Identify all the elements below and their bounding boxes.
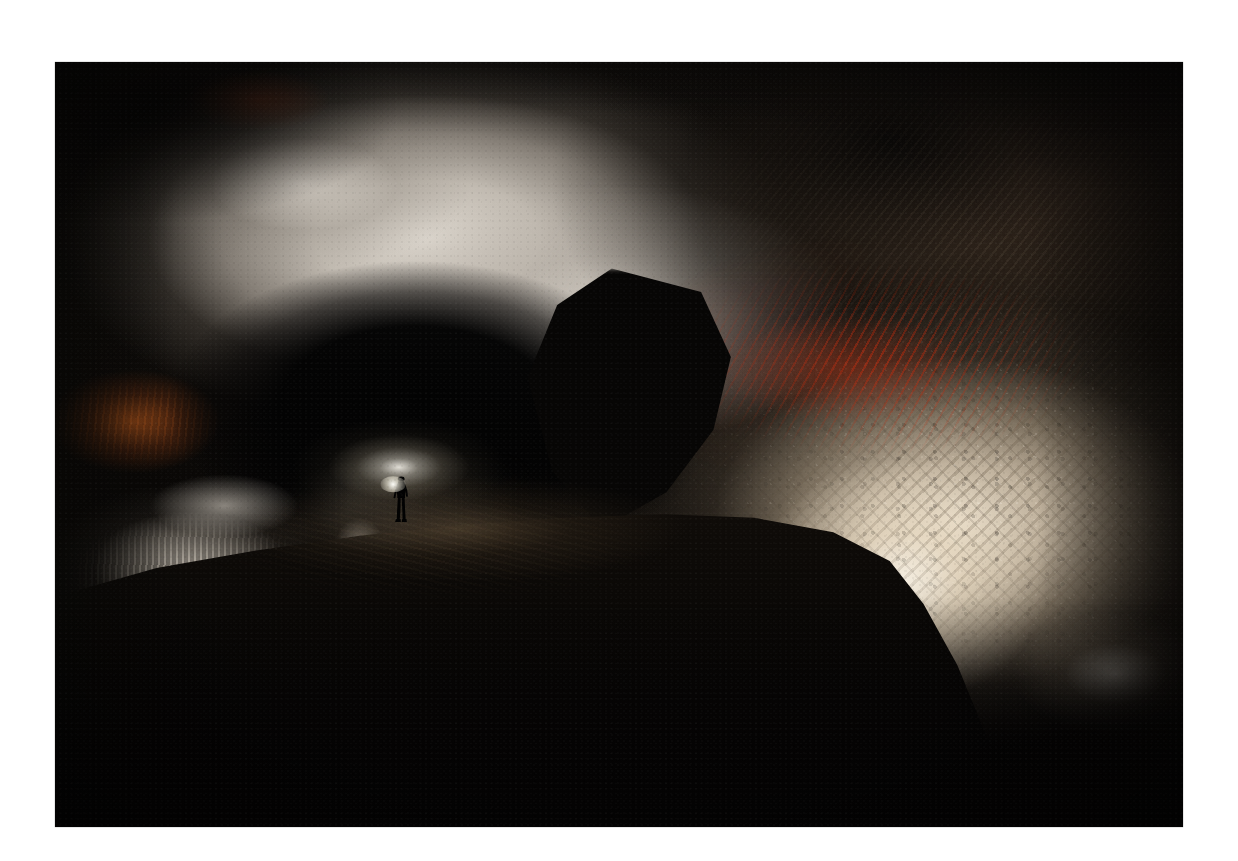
headlamp-core [381, 477, 406, 492]
cave-photograph [55, 62, 1183, 827]
page-root [0, 0, 1238, 861]
floor-ridge [55, 467, 1183, 827]
hanging-boulder [517, 269, 765, 529]
